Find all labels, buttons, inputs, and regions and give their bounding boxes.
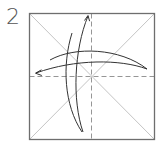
vertical-fold-arrow [66, 16, 90, 133]
origami-diagram [0, 0, 161, 143]
arrowhead-left-icon [36, 70, 42, 76]
